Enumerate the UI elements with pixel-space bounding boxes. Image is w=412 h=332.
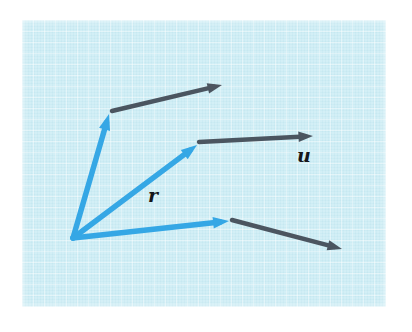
vector-label-u: u	[297, 146, 311, 165]
figure-root: u r	[0, 0, 412, 332]
vector-label-r: r	[148, 186, 158, 205]
diagram-panel	[22, 20, 386, 307]
panel-grid-texture	[22, 20, 386, 307]
panel-edge-softening	[22, 20, 386, 307]
